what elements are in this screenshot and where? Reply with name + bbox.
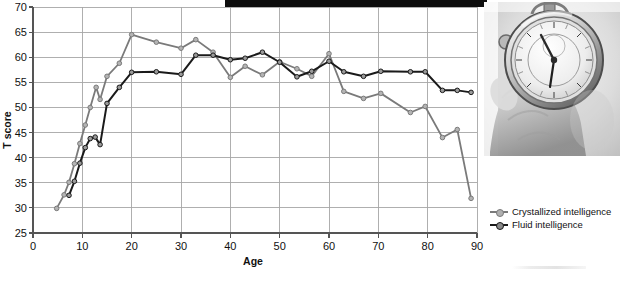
y-tick-labels: 25303540455055606570 <box>15 1 27 239</box>
axis-lines <box>33 7 477 233</box>
axis-ticks <box>29 7 477 238</box>
x-tick-label: 30 <box>175 240 187 252</box>
legend-label-fluid: Fluid intelligence <box>512 218 583 231</box>
x-tick-label: 40 <box>224 240 236 252</box>
legend-item-crystallized[interactable]: Crystallized intelligence <box>490 205 620 218</box>
x-tick-label: 60 <box>323 240 335 252</box>
x-tick-label: 20 <box>126 240 138 252</box>
x-tick-label: 0 <box>30 240 36 252</box>
y-axis-title: T score <box>1 111 13 149</box>
y-tick-label: 70 <box>15 1 27 13</box>
series-crystallized <box>54 32 473 210</box>
data-series <box>54 32 473 210</box>
y-tick-label: 55 <box>15 76 27 88</box>
chart-canvas: 0102030405060708090 25303540455055606570… <box>0 0 500 281</box>
y-tick-label: 45 <box>15 127 27 139</box>
page-artifact-line <box>512 266 586 269</box>
y-tick-label: 30 <box>15 202 27 214</box>
y-tick-label: 35 <box>15 177 27 189</box>
x-tick-label: 80 <box>422 240 434 252</box>
stopwatch-photo <box>484 2 620 156</box>
x-axis-title: Age <box>243 255 263 267</box>
y-tick-label: 60 <box>15 51 27 63</box>
y-tick-label: 65 <box>15 26 27 38</box>
legend-item-fluid[interactable]: Fluid intelligence <box>490 218 620 231</box>
x-tick-label: 50 <box>274 240 286 252</box>
legend-marker-fluid <box>490 220 508 230</box>
figure-page: 0102030405060708090 25303540455055606570… <box>0 0 620 281</box>
y-tick-label: 50 <box>15 101 27 113</box>
x-tick-label: 70 <box>372 240 384 252</box>
series-fluid <box>67 50 474 198</box>
x-tick-label: 90 <box>471 240 483 252</box>
line-chart: 0102030405060708090 25303540455055606570… <box>0 0 500 281</box>
grid-lines <box>33 7 477 233</box>
y-tick-label: 40 <box>15 152 27 164</box>
legend-marker-crystallized <box>490 207 508 217</box>
x-tick-labels: 0102030405060708090 <box>30 240 483 252</box>
stopwatch-illustration <box>484 2 620 156</box>
legend-label-crystallized: Crystallized intelligence <box>512 205 611 218</box>
x-tick-label: 10 <box>76 240 88 252</box>
chart-legend: Crystallized intelligence Fluid intellig… <box>490 205 620 231</box>
y-tick-label: 25 <box>15 227 27 239</box>
